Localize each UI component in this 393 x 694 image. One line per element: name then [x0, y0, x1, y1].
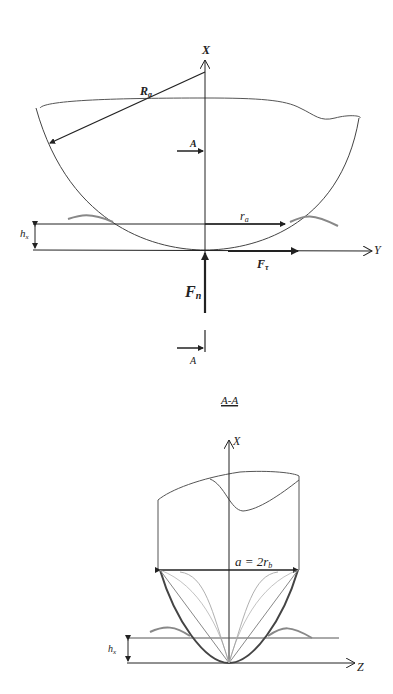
section-label-bottom: A — [189, 355, 197, 366]
surface-bump-left — [68, 215, 113, 222]
section-depth-label: hx — [108, 643, 117, 656]
section-title: A-A — [220, 394, 238, 406]
radius-label: Ra — [139, 84, 152, 99]
radius-arrow — [50, 72, 205, 143]
surface-bump-right — [290, 216, 338, 226]
diagram-canvas: X Y Ra A A hx ra Fτ Fn A-A X — [0, 0, 393, 694]
section-bump-left — [150, 627, 190, 636]
width-label: a = 2rb — [235, 554, 272, 570]
y-axis — [33, 250, 372, 251]
bowl-profile — [36, 108, 359, 250]
tangential-force-label: Fτ — [256, 257, 269, 272]
bowl-rim — [40, 98, 360, 119]
normal-force-label: Fn — [184, 283, 202, 301]
section-label-top: A — [189, 138, 197, 149]
section-x-label: X — [232, 434, 241, 448]
section-bump-right — [268, 628, 312, 638]
x-axis-label: X — [201, 43, 211, 57]
depth-label: hx — [20, 227, 30, 241]
contact-radius-label: ra — [240, 209, 249, 224]
top-view: X Y Ra A A hx ra Fτ Fn — [20, 43, 382, 366]
section-view: A-A X Z a = 2rb hx — [108, 394, 364, 674]
chip-curve — [210, 479, 299, 511]
y-axis-label: Y — [374, 243, 382, 257]
z-axis-label: Z — [357, 660, 364, 674]
